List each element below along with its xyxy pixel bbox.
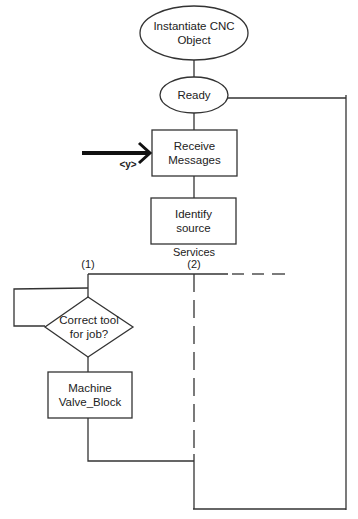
identify-node-line1: Identify (175, 208, 212, 220)
decision-node-line1: Correct tool (59, 314, 118, 326)
decision-node: Correct toolfor job? (45, 297, 133, 357)
start-node-line2: Object (177, 34, 210, 46)
decision-node-line2: for job? (70, 328, 108, 340)
receive-node-line1: Receive (174, 140, 216, 152)
identify-node: Identifysource (151, 198, 236, 244)
ready-node: Ready (160, 77, 228, 113)
branch1-label: (1) (78, 258, 98, 271)
identify-node-line2: source (176, 222, 211, 234)
ready-node-label: Ready (177, 88, 210, 102)
input-arrow-label: <y> (116, 158, 140, 171)
branch2-label: (2) (184, 258, 204, 271)
machine-node: MachineValve_Block (48, 372, 132, 418)
machine-node-line1: Machine (68, 382, 111, 394)
machine-node-line2: Valve_Block (59, 396, 121, 408)
start-node: Instantiate CNCObject (140, 6, 248, 60)
receive-node: ReceiveMessages (152, 130, 237, 176)
start-node-line1: Instantiate CNC (153, 20, 234, 32)
receive-node-line2: Messages (168, 154, 220, 166)
